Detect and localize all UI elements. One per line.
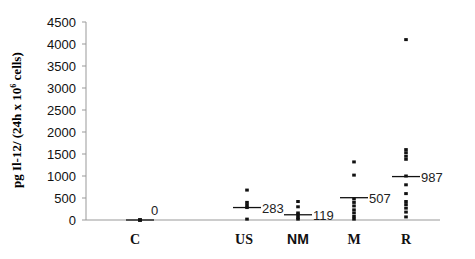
data-point xyxy=(245,201,249,204)
x-category-label: C xyxy=(130,232,140,247)
data-point xyxy=(404,158,408,161)
data-point xyxy=(404,155,408,158)
median-label: 119 xyxy=(313,208,334,223)
x-category-label: NM xyxy=(287,231,309,247)
y-tick-label: 1500 xyxy=(47,147,76,162)
data-point xyxy=(352,160,356,163)
y-tick-label: 2500 xyxy=(47,103,76,118)
data-point xyxy=(352,215,356,218)
data-point xyxy=(404,183,408,186)
y-tick-label: 500 xyxy=(54,191,76,206)
data-point xyxy=(404,207,408,210)
dot-plot: 050010001500200025003000350040004500CUSN… xyxy=(0,0,475,259)
y-tick-label: 3000 xyxy=(47,81,76,96)
data-point xyxy=(404,200,408,203)
data-point xyxy=(352,218,356,221)
x-category-label: R xyxy=(401,232,412,247)
median-label: 987 xyxy=(421,170,443,185)
y-tick-label: 4000 xyxy=(47,37,76,52)
y-tick-label: 2000 xyxy=(47,125,76,140)
data-point xyxy=(296,218,300,221)
data-point xyxy=(404,148,408,151)
data-point xyxy=(245,218,249,221)
y-tick-label: 0 xyxy=(69,213,76,228)
x-category-label: US xyxy=(235,232,253,247)
median-label: 283 xyxy=(262,201,284,216)
x-category-label: M xyxy=(347,232,360,247)
data-point xyxy=(352,211,356,214)
plot-area: 0283119507987 xyxy=(126,38,443,223)
y-tick-label: 1000 xyxy=(47,169,76,184)
data-point xyxy=(352,208,356,211)
data-point xyxy=(296,200,300,203)
data-point xyxy=(352,204,356,207)
y-tick-label: 4500 xyxy=(47,15,76,30)
data-point xyxy=(404,203,408,206)
data-point xyxy=(404,192,408,195)
data-point xyxy=(245,189,249,192)
data-point xyxy=(404,38,408,41)
median-label: 507 xyxy=(369,191,391,206)
data-point xyxy=(404,151,408,154)
data-point xyxy=(404,211,408,214)
median-label: 0 xyxy=(151,203,158,218)
data-point xyxy=(404,215,408,218)
y-tick-label: 3500 xyxy=(47,59,76,74)
data-point xyxy=(296,205,300,208)
axes: 050010001500200025003000350040004500CUSN… xyxy=(47,15,440,248)
data-point xyxy=(352,174,356,177)
data-point xyxy=(352,201,356,204)
